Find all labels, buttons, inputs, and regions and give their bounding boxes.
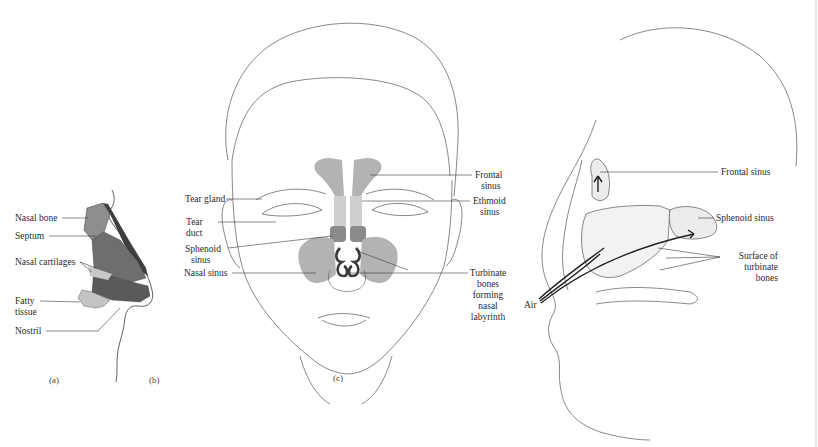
label-fatty-tissue-line1: Fatty (15, 296, 35, 307)
label-nasal-cartilages: Nasal cartilages (15, 257, 75, 268)
label-septum: Septum (15, 231, 44, 242)
anatomy-illustration (0, 0, 818, 447)
label-nasal-sinus: Nasal sinus (184, 268, 228, 279)
label-surface-turbinate-line1: Surface of (722, 251, 778, 262)
label-turbinate-line3: forming (468, 290, 508, 301)
label-frontal-sinus-b-line1: Frontal (475, 170, 502, 181)
label-nostril: Nostril (15, 326, 41, 337)
label-tear-gland: Tear gland (185, 194, 225, 205)
label-air: Air (524, 300, 537, 311)
label-nasal-bone: Nasal bone (15, 213, 57, 224)
label-frontal-sinus-b-line2: sinus (481, 181, 501, 192)
label-surface-turbinate-line2: turbinate (722, 262, 778, 273)
label-frontal-sinus-c: Frontal sinus (721, 167, 770, 178)
label-surface-turbinate-line3: bones (722, 273, 778, 284)
label-fatty-tissue-line2: tissue (15, 307, 37, 318)
label-sphenoid-sinus-c: Sphenoid sinus (716, 213, 774, 224)
panel-b-sinuses (298, 158, 397, 292)
label-turbinate-line1: Turbinate (468, 268, 508, 279)
label-ethmoid-sinus-line1: Ethmoid (473, 196, 506, 207)
label-sphenoid-sinus-b-line1: Sphenoid (185, 244, 221, 255)
label-turbinate-line2: bones (468, 279, 508, 290)
label-turbinate-line4: nasal (468, 301, 508, 312)
panel-b-letter: (b) (149, 375, 160, 385)
label-tear-duct-line1: Tear (186, 217, 203, 228)
label-turbinate-line5: labyrinth (468, 312, 508, 323)
panel-c-letter: (c) (333, 373, 343, 383)
label-tear-duct-line2: duct (186, 228, 202, 239)
panel-a-nose-tissues (78, 203, 150, 308)
label-ethmoid-sinus-line2: sinus (480, 207, 500, 218)
panel-a-letter: (a) (49, 375, 59, 385)
panel-c-head-outline (542, 28, 797, 440)
label-sphenoid-sinus-b-line2: sinus (191, 255, 211, 266)
